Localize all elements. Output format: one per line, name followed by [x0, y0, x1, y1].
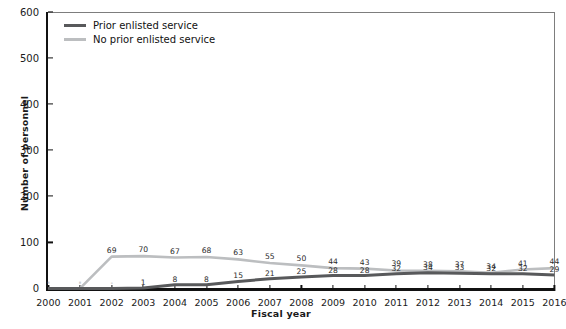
legend-swatch-no-prior-enlisted-service [64, 38, 86, 41]
x-tick-label: 2005 [194, 297, 218, 308]
x-tick-label: 2000 [36, 297, 60, 308]
y-tick-label: 100 [20, 237, 39, 248]
legend-item-no-prior-enlisted-service: No prior enlisted service [64, 34, 215, 45]
x-tick-label: 2006 [226, 297, 250, 308]
x-tick-label: 2003 [131, 297, 155, 308]
series-lines [46, 12, 555, 291]
x-tick-label: 2014 [479, 297, 503, 308]
x-tick-label: 2015 [511, 297, 535, 308]
legend-item-prior-enlisted-service: Prior enlisted service [64, 20, 215, 31]
x-tick-label: 2010 [353, 297, 377, 308]
x-tick-label: 2013 [447, 297, 471, 308]
x-tick-label: 2008 [289, 297, 313, 308]
y-tick-label: 400 [20, 99, 39, 110]
legend-label-prior-enlisted-service: Prior enlisted service [93, 20, 198, 31]
y-tick-label: 0 [33, 283, 39, 294]
x-tick-label: 2016 [542, 297, 566, 308]
x-axis-title: Fiscal year [0, 308, 562, 319]
series-line-prior-enlisted-service [48, 273, 554, 289]
x-tick-label: 2007 [258, 297, 282, 308]
plot-area: 0100200300400500600 20002001200220032004… [46, 12, 555, 291]
chart-legend: Prior enlisted service No prior enlisted… [64, 20, 215, 45]
y-tick-label: 500 [20, 53, 39, 64]
x-tick-label: 2001 [68, 297, 92, 308]
y-tick-label: 300 [20, 145, 39, 156]
x-tick-label: 2004 [163, 297, 187, 308]
x-tick-label: 2002 [100, 297, 124, 308]
x-tick-label: 2011 [384, 297, 408, 308]
legend-swatch-prior-enlisted-service [64, 24, 86, 27]
legend-label-no-prior-enlisted-service: No prior enlisted service [93, 34, 215, 45]
x-tick-label: 2009 [321, 297, 345, 308]
x-tick-label: 2012 [416, 297, 440, 308]
y-tick-label: 600 [20, 7, 39, 18]
y-tick-label: 200 [20, 191, 39, 202]
